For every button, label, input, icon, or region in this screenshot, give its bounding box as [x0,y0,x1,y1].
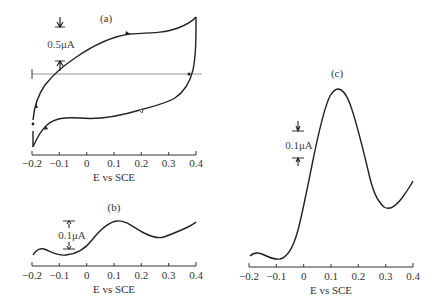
scale-bar-b: 0.1μA [58,221,86,249]
tick-label: −0.1 [266,270,286,282]
x-axis-a: −0.2 −0.1 0 0.1 0.2 0.3 0.4 E vs SCE [22,151,203,183]
x-axis-b: −0.2 −0.1 0 0.1 0.2 0.3 0.4 E vs SCE [22,262,203,295]
tick-label: 0 [301,270,307,282]
panel-a-label: (a) [100,12,113,25]
panel-c-label: (c) [331,67,344,80]
scale-bar-c-label: 0.1μA [285,139,313,151]
tick-label: 0 [84,269,90,281]
tick-label: 0.3 [162,269,176,281]
tick-label: 0.4 [189,269,203,281]
panel-c: (c) 0.1μA −0.2 −0.1 0 0.1 0.2 0.3 0.4 E [239,67,420,296]
figure: (a) 0.5μA [0,0,436,306]
panel-a: (a) 0.5μA [22,12,203,183]
tick-label: 0.4 [189,157,203,169]
tick-label: −0.1 [49,157,69,169]
tick-label: 0.2 [134,269,148,281]
tick-label: −0.2 [22,157,42,169]
tick-label: 0.4 [406,270,420,282]
tick-label: 0.3 [162,157,176,169]
tick-label: −0.2 [22,269,42,281]
tick-label: 0 [84,157,90,169]
tick-label: 0.3 [379,270,393,282]
x-axis-title-c: E vs SCE [310,284,352,296]
tick-label: 0.1 [107,157,121,169]
scale-bar-a: 0.5μA [47,17,75,71]
tick-label: 0.2 [134,157,148,169]
tick-label: 0.2 [351,270,365,282]
curve-c [250,89,413,259]
x-axis-title-a: E vs SCE [93,171,135,183]
panel-b-label: (b) [108,201,121,214]
cv-reverse-sweep [33,98,175,147]
tick-label: −0.2 [239,270,259,282]
panel-b: (b) 0.1μA −0.2 −0.1 0 0.1 0.2 0.3 0.4 E [22,201,203,295]
cv-forward-sweep [33,17,196,120]
tick-label: 0.1 [107,269,121,281]
direction-arrow-icon [139,109,143,113]
tick-label: −0.1 [49,269,69,281]
x-axis-c: −0.2 −0.1 0 0.1 0.2 0.3 0.4 E vs SCE [239,263,420,296]
scale-bar-b-label: 0.1μA [58,229,86,241]
tick-label: 0.1 [324,270,338,282]
x-axis-title-b: E vs SCE [93,283,135,295]
scale-bar-c: 0.1μA [285,121,313,166]
scale-bar-a-label: 0.5μA [47,38,75,50]
